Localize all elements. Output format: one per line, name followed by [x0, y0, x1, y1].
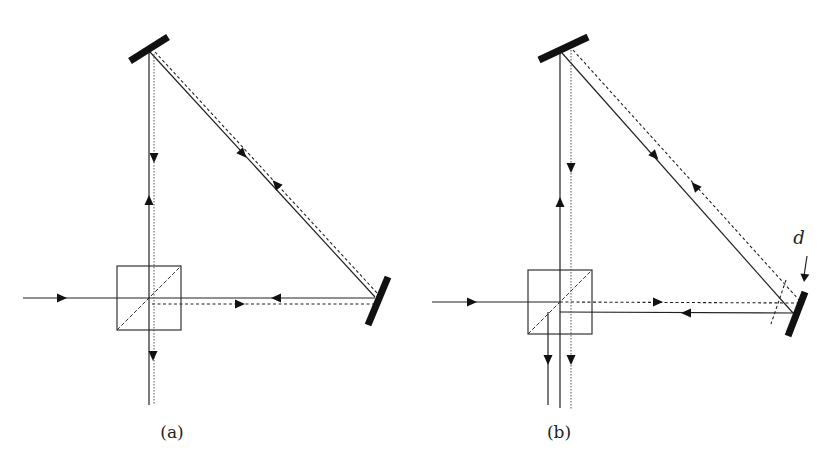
- beam-solid: [560, 312, 795, 313]
- pointer-arrow-icon: [800, 274, 810, 283]
- panel-b-sagnac-displaced: (b)d: [432, 37, 809, 442]
- beam-solid: [150, 52, 375, 297]
- arrow-left-icon: [681, 309, 691, 318]
- arrow-down-icon: [149, 351, 158, 361]
- arrow-down-icon: [567, 163, 576, 173]
- arrow-up-icon: [145, 195, 154, 205]
- arrow-down-icon: [567, 355, 576, 365]
- beam-dashed: [155, 52, 378, 294]
- displacement-label: d: [793, 227, 805, 248]
- arrow-right-icon: [467, 298, 477, 307]
- displacement-pointer: [804, 256, 807, 276]
- panel-caption: (a): [160, 422, 183, 442]
- beam-dashed: [560, 302, 800, 303]
- beam-solid: [562, 53, 793, 313]
- arrow-left-icon: [271, 294, 281, 303]
- right-mirror: [788, 292, 805, 336]
- right-mirror: [368, 277, 388, 325]
- arrow-up-icon: [556, 197, 565, 207]
- panel-a-sagnac-aligned: (a): [23, 37, 388, 442]
- interferometer-diagram: (a) (b)d: [0, 0, 840, 464]
- arrow-right-icon: [57, 294, 67, 303]
- beam-dashed: [573, 50, 800, 301]
- arrow-down-icon: [150, 153, 159, 163]
- panel-caption: (b): [547, 422, 571, 442]
- arrow-right-icon: [653, 298, 663, 307]
- arrow-down-icon: [544, 355, 553, 365]
- arrow-down-right-icon: [648, 149, 661, 162]
- top-mirror: [539, 37, 588, 60]
- arrow-right-icon: [235, 300, 245, 309]
